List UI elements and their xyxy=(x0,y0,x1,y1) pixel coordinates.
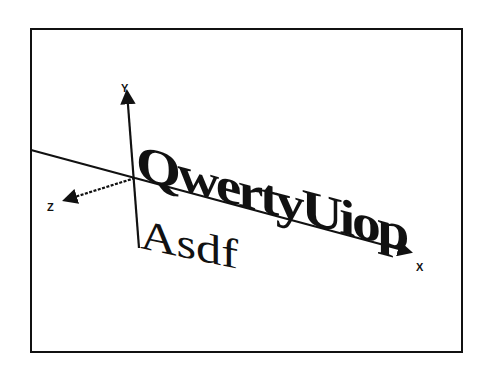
figure-canvas: Y Z X QwertyUiop Asdf xyxy=(0,0,486,367)
text-object-secondary: Asdf xyxy=(140,210,239,278)
x-axis-negative-line xyxy=(31,150,135,178)
z-axis-line xyxy=(65,178,135,200)
z-axis-label: Z xyxy=(47,201,54,213)
y-axis-label: Y xyxy=(121,82,129,94)
x-axis-label: X xyxy=(416,261,424,273)
